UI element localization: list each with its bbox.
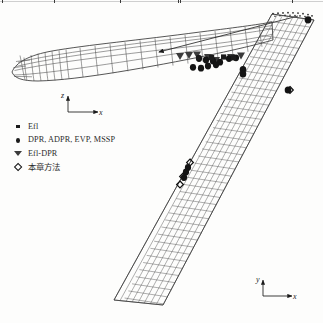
open-diamond-marker xyxy=(10,161,26,174)
sensor-markers-side-view xyxy=(176,52,245,72)
legend: Efl DPR, ADPR, EVP, MSSP Efl-DPR 本章方法 xyxy=(10,120,150,174)
axis-label-y-plan: y xyxy=(256,275,260,284)
legend-item-proposed-method[interactable]: 本章方法 xyxy=(10,161,150,175)
filled-triangle-marker xyxy=(10,147,26,160)
axis-label-z-side: z xyxy=(61,91,64,100)
legend-label-efl: Efl xyxy=(26,123,38,131)
legend-item-dpr-group[interactable]: DPR, ADPR, EVP, MSSP xyxy=(10,134,150,148)
axis-label-x-side: x xyxy=(99,108,103,117)
side-view-wing-mesh xyxy=(12,22,273,81)
legend-label-dpr-group: DPR, ADPR, EVP, MSSP xyxy=(26,136,115,144)
axis-triad-plan-view xyxy=(263,280,292,296)
scan-artifact-band xyxy=(0,0,323,3)
filled-square-marker xyxy=(10,120,26,133)
legend-item-efl[interactable]: Efl xyxy=(10,120,150,134)
filled-circle-marker xyxy=(10,134,26,147)
legend-item-efl-dpr[interactable]: Efl-DPR xyxy=(10,147,150,161)
figure-canvas: z x y x Efl DPR, ADPR, EVP, MSSP Efl-DPR xyxy=(0,0,323,323)
axis-triad-side-view xyxy=(68,96,98,112)
sensor-markers-planform-midspan xyxy=(177,159,194,188)
legend-label-proposed-method: 本章方法 xyxy=(26,163,60,171)
legend-label-efl-dpr: Efl-DPR xyxy=(26,150,57,158)
axis-label-x-plan: x xyxy=(293,292,297,301)
